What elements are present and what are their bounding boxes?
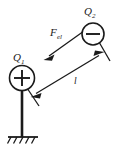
- distance-arrowhead-right: [94, 50, 105, 56]
- charge2-group: Q 2: [82, 5, 104, 45]
- charge1-label: Q: [13, 51, 21, 63]
- distance-dimension-group: l: [27, 42, 110, 106]
- ground-hatch: [8, 137, 12, 144]
- ground-hatch: [26, 137, 30, 144]
- charge-force-diagram: l Q 1 Q 2: [0, 0, 123, 147]
- force-label-group: F el: [49, 26, 62, 41]
- ground-hatch: [20, 137, 24, 144]
- physics-figure: l Q 1 Q 2: [0, 0, 123, 147]
- charge1-subscript: 1: [21, 58, 25, 66]
- charge1-group: Q 1: [10, 51, 35, 91]
- force-label: F: [49, 26, 57, 38]
- charge2-subscript: 2: [92, 12, 96, 20]
- distance-line: [36, 56, 99, 94]
- distance-label: l: [74, 76, 77, 86]
- ground-hatch: [32, 137, 36, 144]
- ground-hatch: [14, 137, 18, 144]
- force-subscript: el: [57, 33, 62, 41]
- charge2-label: Q: [84, 5, 92, 17]
